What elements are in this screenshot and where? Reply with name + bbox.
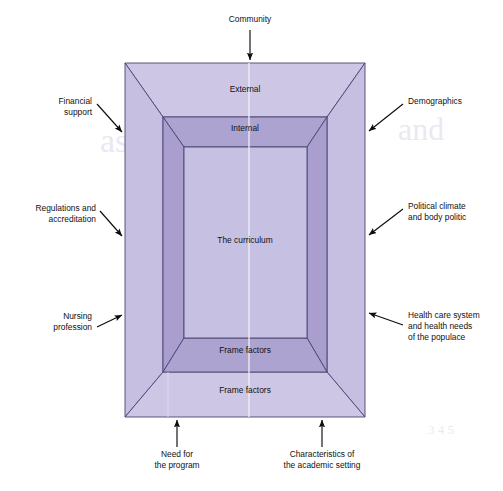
outer-left-face <box>125 63 163 417</box>
callout-community: Community <box>229 14 272 60</box>
callout-label-characteristics-line2: the academic setting <box>284 460 361 470</box>
zone-label-internal: Internal <box>231 123 259 133</box>
callout-arrow-nursing <box>97 315 122 327</box>
callout-label-community: Community <box>229 14 272 24</box>
callout-label-demographics: Demographics <box>408 96 462 106</box>
zone-label-curriculum: The curriculum <box>217 235 272 245</box>
outer-right-face <box>327 63 365 417</box>
callout-label-need-line1: Need for <box>161 449 193 459</box>
frame-factors-diagram: environment assessment the the curriculu… <box>0 0 503 491</box>
callout-label-political-line2: and body politic <box>408 212 466 222</box>
callout-arrow-political-climate <box>369 209 403 235</box>
zone-label-frame-factors-internal: Frame factors <box>219 345 271 355</box>
callout-political-climate: Political climate and body politic <box>369 201 466 235</box>
zone-label-frame-factors-external: Frame factors <box>219 385 271 395</box>
callout-label-financial-support-line2: support <box>64 107 93 117</box>
callout-label-health-line3: of the populace <box>408 332 466 342</box>
callout-regulations-and-accreditation: Regulations and accreditation <box>35 203 122 236</box>
zone-label-external: External <box>230 84 261 94</box>
callout-label-need-line2: the program <box>154 460 199 470</box>
callout-arrow-regulations <box>100 211 122 236</box>
watermark-line: 3 4 5 <box>428 422 454 437</box>
middle-bottom-face <box>163 338 327 372</box>
callout-label-political-line1: Political climate <box>408 201 466 211</box>
callout-label-nursing-line1: Nursing <box>63 311 92 321</box>
callout-label-nursing-line2: profession <box>53 322 92 332</box>
callout-label-characteristics-line1: Characteristics of <box>290 449 355 459</box>
middle-left-face <box>163 117 184 372</box>
callout-need-for-the-program: Need for the program <box>154 420 199 470</box>
diagram-canvas: environment assessment the the curriculu… <box>0 0 503 491</box>
callout-label-financial-support-line1: Financial <box>58 96 92 106</box>
callout-label-regulations-line1: Regulations and <box>35 203 96 213</box>
watermark-line: and <box>398 111 444 147</box>
callout-characteristics-academic-setting: Characteristics of the academic setting <box>284 420 361 470</box>
callout-label-health-line1: Health care system <box>408 310 480 320</box>
callout-nursing-profession: Nursing profession <box>53 311 122 332</box>
callout-label-regulations-line2: accreditation <box>49 214 97 224</box>
callout-health-care-system: Health care system and health needs of t… <box>369 310 480 342</box>
middle-right-face <box>307 117 327 372</box>
callout-arrow-health-care-system <box>369 313 403 325</box>
callout-label-health-line2: and health needs <box>408 321 472 331</box>
